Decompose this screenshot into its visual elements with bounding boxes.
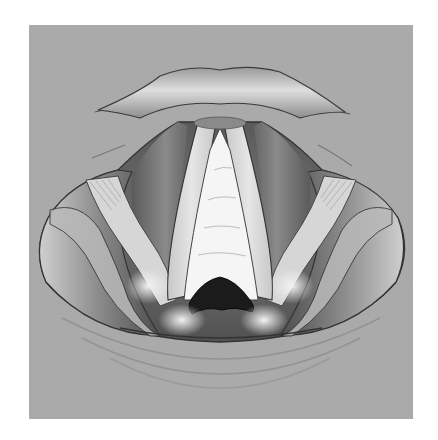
epiglottic-tubercle [194, 117, 246, 129]
larynx-illustration: Grayscale anatomical illustration of the… [0, 0, 438, 440]
larynx-svg [0, 0, 438, 440]
